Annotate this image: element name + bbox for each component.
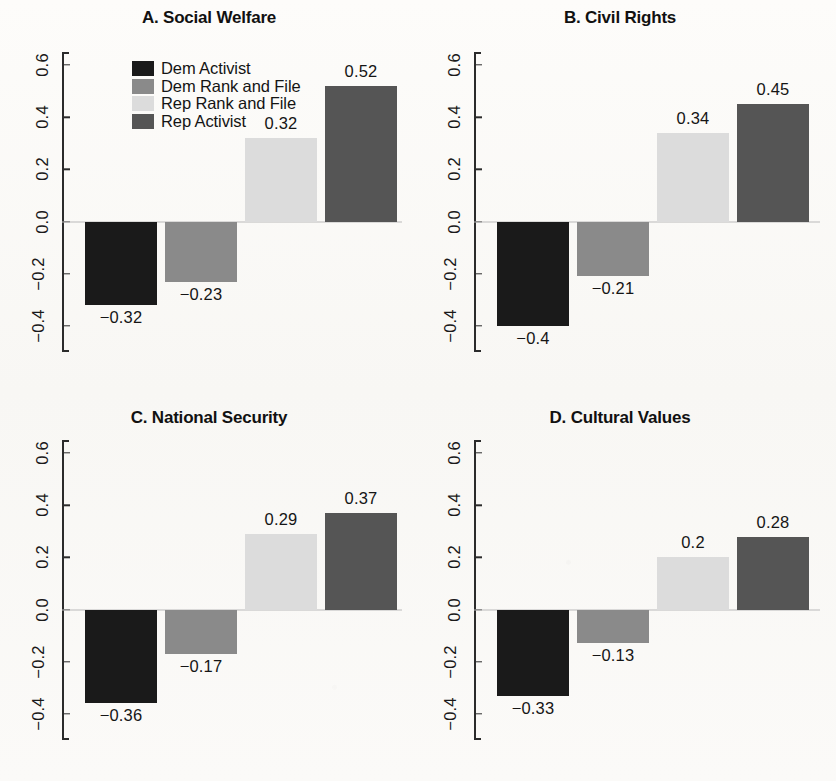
y-axis-tick-label: 0.4 xyxy=(34,493,53,517)
panel-c-bars: −0.36−0.170.290.37 xyxy=(62,440,396,740)
bar-value-label: 0.28 xyxy=(757,513,790,532)
panel-c-national-security: C. National Security 0.60.40.20.0−0.2−0.… xyxy=(0,400,418,781)
y-axis-tick-label: 0.6 xyxy=(34,53,53,77)
y-axis-tick-label: 0.2 xyxy=(34,546,53,570)
legend-item: Rep Rank and File xyxy=(132,95,301,113)
y-axis-tick-label: 0.0 xyxy=(34,210,53,234)
bar-3[interactable] xyxy=(657,557,729,609)
panel-a-social-welfare: A. Social Welfare 0.60.40.20.0−0.2−0.4 −… xyxy=(0,0,418,400)
y-axis-tick-label: 0.0 xyxy=(446,210,465,234)
bar-3[interactable] xyxy=(245,138,317,221)
y-axis-tick-label: −0.4 xyxy=(441,697,460,730)
legend-item: Dem Rank and File xyxy=(132,78,301,96)
bar-value-label: −0.23 xyxy=(180,285,223,304)
bar-group[interactable]: −0.36 xyxy=(85,440,157,740)
bar-2[interactable] xyxy=(165,222,237,282)
bar-3[interactable] xyxy=(657,133,729,222)
bar-value-label: 0.52 xyxy=(345,62,378,81)
bar-value-label: −0.36 xyxy=(100,706,143,725)
bar-value-label: −0.32 xyxy=(100,308,143,327)
y-axis-tick-label: 0.6 xyxy=(34,441,53,465)
bar-group[interactable]: 0.34 xyxy=(657,52,729,352)
legend: Dem ActivistDem Rank and FileRep Rank an… xyxy=(132,60,301,130)
bar-group[interactable]: 0.29 xyxy=(245,440,317,740)
y-axis-tick-label: −0.2 xyxy=(29,645,48,678)
legend-swatch-icon xyxy=(132,79,154,94)
bar-value-label: 0.37 xyxy=(345,489,378,508)
panel-c-title: C. National Security xyxy=(0,408,418,428)
bar-group[interactable]: −0.4 xyxy=(497,52,569,352)
bar-1[interactable] xyxy=(85,610,157,704)
bar-group[interactable]: 0.52 xyxy=(325,52,397,352)
legend-swatch-icon xyxy=(132,61,154,76)
bar-group[interactable]: 0.28 xyxy=(737,440,809,740)
y-axis-tick-label: 0.6 xyxy=(446,53,465,77)
bar-1[interactable] xyxy=(85,222,157,305)
legend-label: Rep Activist xyxy=(161,113,246,131)
bar-2[interactable] xyxy=(577,610,649,644)
y-axis-tick-label: −0.2 xyxy=(441,645,460,678)
y-axis-tick-label: 0.2 xyxy=(446,546,465,570)
y-axis-tick-label: 0.4 xyxy=(446,105,465,129)
y-axis-tick-label: 0.4 xyxy=(446,493,465,517)
panel-c-plot: 0.60.40.20.0−0.2−0.4 −0.36−0.170.290.37 xyxy=(62,440,396,740)
bar-group[interactable]: 0.2 xyxy=(657,440,729,740)
bar-1[interactable] xyxy=(497,222,569,326)
y-axis-tick-label: −0.4 xyxy=(441,309,460,342)
y-axis-tick-label: 0.0 xyxy=(446,598,465,622)
bar-value-label: −0.21 xyxy=(592,279,635,298)
y-axis-tick-label: 0.2 xyxy=(446,158,465,182)
legend-label: Dem Activist xyxy=(161,60,251,78)
bar-value-label: −0.33 xyxy=(512,699,555,718)
legend-swatch-icon xyxy=(132,114,154,129)
y-axis-tick-label: −0.4 xyxy=(29,697,48,730)
panel-b-plot: 0.60.40.20.0−0.2−0.4 −0.4−0.210.340.45 xyxy=(474,52,814,352)
bar-4[interactable] xyxy=(325,513,397,610)
legend-item: Dem Activist xyxy=(132,60,301,78)
panel-d-plot: 0.60.40.20.0−0.2−0.4 −0.33−0.130.20.28 xyxy=(474,440,814,740)
panel-d-cultural-values: D. Cultural Values 0.60.40.20.0−0.2−0.4 … xyxy=(418,400,836,781)
chart-grid: A. Social Welfare 0.60.40.20.0−0.2−0.4 −… xyxy=(0,0,836,781)
bar-4[interactable] xyxy=(737,537,809,610)
bar-value-label: −0.4 xyxy=(516,329,549,348)
y-axis-tick-label: −0.2 xyxy=(441,257,460,290)
bar-value-label: −0.17 xyxy=(180,657,223,676)
panel-b-title: B. Civil Rights xyxy=(418,8,836,28)
bar-group[interactable]: −0.21 xyxy=(577,52,649,352)
y-axis-tick-label: 0.2 xyxy=(34,158,53,182)
bar-group[interactable]: 0.45 xyxy=(737,52,809,352)
panel-b-bars: −0.4−0.210.340.45 xyxy=(474,52,814,352)
y-axis-tick-label: 0.4 xyxy=(34,105,53,129)
bar-value-label: −0.13 xyxy=(592,646,635,665)
bar-group[interactable]: −0.13 xyxy=(577,440,649,740)
panel-d-title: D. Cultural Values xyxy=(418,408,836,428)
legend-swatch-icon xyxy=(132,96,154,111)
bar-value-label: 0.34 xyxy=(677,109,710,128)
bar-value-label: 0.2 xyxy=(681,533,705,552)
bar-value-label: 0.29 xyxy=(265,510,298,529)
y-axis-tick-label: 0.6 xyxy=(446,441,465,465)
legend-label: Rep Rank and File xyxy=(161,95,296,113)
bar-2[interactable] xyxy=(165,610,237,654)
y-axis-tick-label: 0.0 xyxy=(34,598,53,622)
bar-value-label: 0.45 xyxy=(757,80,790,99)
panel-d-bars: −0.33−0.130.20.28 xyxy=(474,440,814,740)
bar-4[interactable] xyxy=(325,86,397,222)
legend-item: Rep Activist xyxy=(132,113,301,131)
bar-group[interactable]: 0.37 xyxy=(325,440,397,740)
bar-group[interactable]: −0.17 xyxy=(165,440,237,740)
legend-label: Dem Rank and File xyxy=(161,78,301,96)
bar-2[interactable] xyxy=(577,222,649,277)
bar-group[interactable]: −0.33 xyxy=(497,440,569,740)
panel-a-title: A. Social Welfare xyxy=(0,8,418,28)
y-axis-tick-label: −0.4 xyxy=(29,309,48,342)
bar-3[interactable] xyxy=(245,534,317,610)
bar-4[interactable] xyxy=(737,104,809,221)
panel-b-civil-rights: B. Civil Rights 0.60.40.20.0−0.2−0.4 −0.… xyxy=(418,0,836,400)
bar-1[interactable] xyxy=(497,610,569,696)
panel-a-plot: 0.60.40.20.0−0.2−0.4 −0.32−0.230.320.52 … xyxy=(62,52,396,352)
y-axis-tick-label: −0.2 xyxy=(29,257,48,290)
